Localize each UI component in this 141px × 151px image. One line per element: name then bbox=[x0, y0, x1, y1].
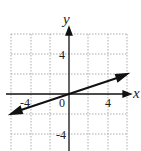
tick-label: -4 bbox=[56, 129, 66, 141]
y-axis-label: y bbox=[63, 12, 70, 27]
tick-label: 4 bbox=[105, 97, 111, 109]
tick-label: 0 bbox=[59, 97, 65, 109]
tick-label: -4 bbox=[20, 97, 30, 109]
x-axis-label: x bbox=[133, 86, 140, 101]
tick-label: 4 bbox=[59, 49, 65, 61]
graph bbox=[0, 0, 141, 151]
axes bbox=[6, 27, 131, 151]
